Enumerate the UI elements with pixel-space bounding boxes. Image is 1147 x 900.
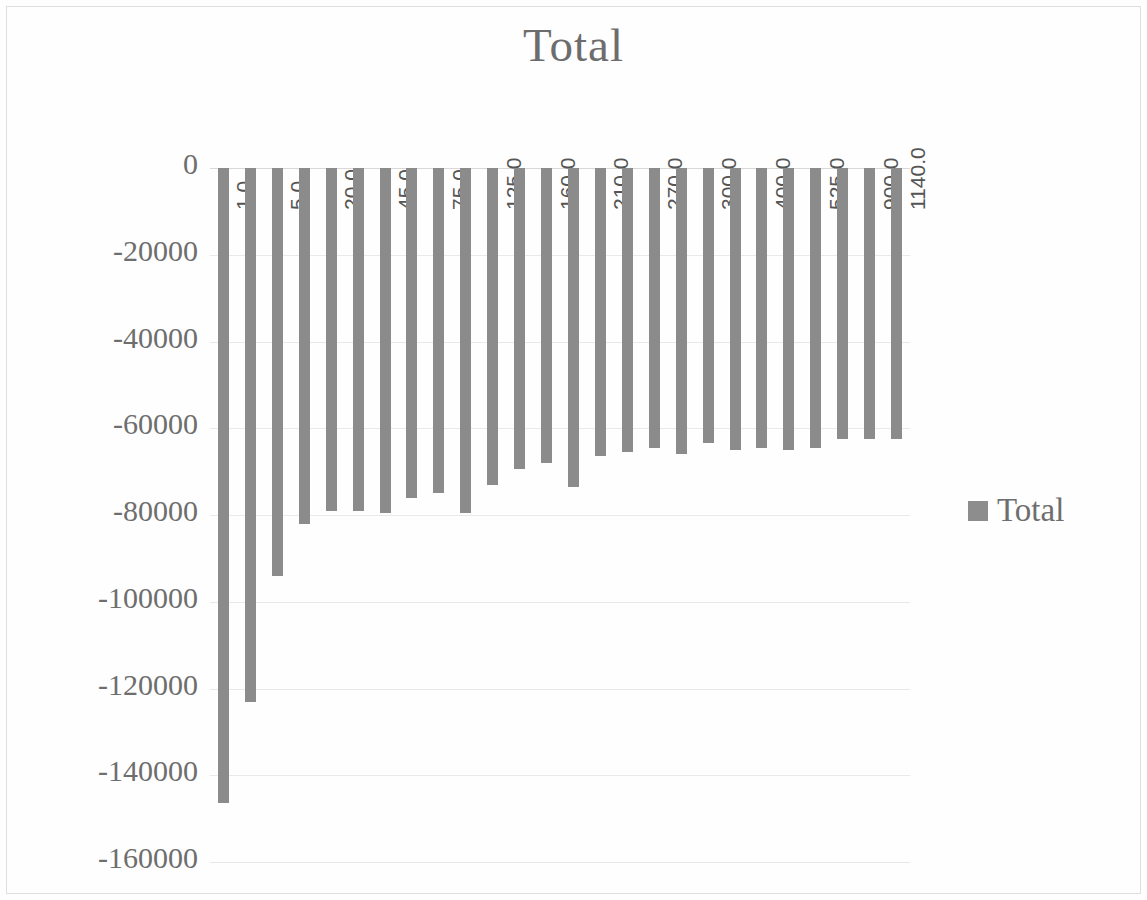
y-axis-tick-label: -60000 [0,407,198,441]
bar [837,168,848,439]
bar [622,168,633,452]
bar [353,168,364,511]
chart-title: Total [0,18,1147,72]
bar [326,168,337,511]
chart-legend: Total [968,492,1064,529]
gridline [210,342,910,343]
y-axis-tick-label: -140000 [0,754,198,788]
y-axis-tick-label: 0 [0,147,198,181]
bar [514,168,525,469]
gridline [210,255,910,256]
bar [649,168,660,448]
y-axis-tick-label: -160000 [0,841,198,875]
y-axis-tick-label: -80000 [0,494,198,528]
y-axis-tick-label: -40000 [0,321,198,355]
gridline [210,602,910,603]
bar [891,168,902,439]
legend-label-total: Total [997,492,1064,529]
bar [730,168,741,450]
bar [568,168,579,487]
gridline [210,689,910,690]
y-axis-tick-label: -20000 [0,234,198,268]
bar [272,168,283,576]
gridline [210,775,910,776]
bar-value-label: 1140.0 [906,147,930,210]
bar [218,168,229,803]
bar [406,168,417,498]
bar [810,168,821,448]
bar [433,168,444,493]
gridline [210,515,910,516]
bar [541,168,552,463]
bar [595,168,606,456]
plot-area: 1.05.020.045.075.0125.0160.0210.0270.030… [210,168,910,862]
bar [783,168,794,450]
chart-page: Total 1.05.020.045.075.0125.0160.0210.02… [0,0,1147,900]
bar [460,168,471,513]
y-axis-tick-label: -100000 [0,581,198,615]
gridline [210,428,910,429]
bar [756,168,767,448]
bar [676,168,687,454]
y-axis-tick-label: -120000 [0,668,198,702]
bar [299,168,310,524]
gridline [210,862,910,863]
bar [245,168,256,702]
bar [864,168,875,439]
legend-swatch-total [968,501,988,521]
bar [380,168,391,513]
bar [487,168,498,485]
bar [703,168,714,443]
